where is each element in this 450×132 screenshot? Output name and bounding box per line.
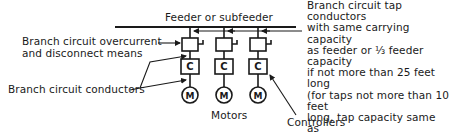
controller-label: C <box>220 61 227 72</box>
overcurrent-label: Branch circuit overcurrent and disconnec… <box>22 36 162 59</box>
controllers-label: Controllers <box>287 117 345 129</box>
motor-label: M <box>254 91 263 101</box>
branch-conductors-label: Branch circuit conductors <box>8 84 145 96</box>
tap-conductors-label: Branch circuit tap conductors with same … <box>307 0 450 132</box>
motor-label: M <box>186 91 195 101</box>
feeder-label: Feeder or subfeeder <box>165 12 273 24</box>
breaker-box <box>182 38 198 51</box>
controllers-pointer <box>270 75 296 115</box>
motors-label: Motors <box>211 110 247 122</box>
breaker-box <box>216 38 232 51</box>
motor-label: M <box>220 91 229 101</box>
controller-label: C <box>254 61 261 72</box>
controller-label: C <box>186 61 193 72</box>
breaker-box <box>250 38 266 51</box>
